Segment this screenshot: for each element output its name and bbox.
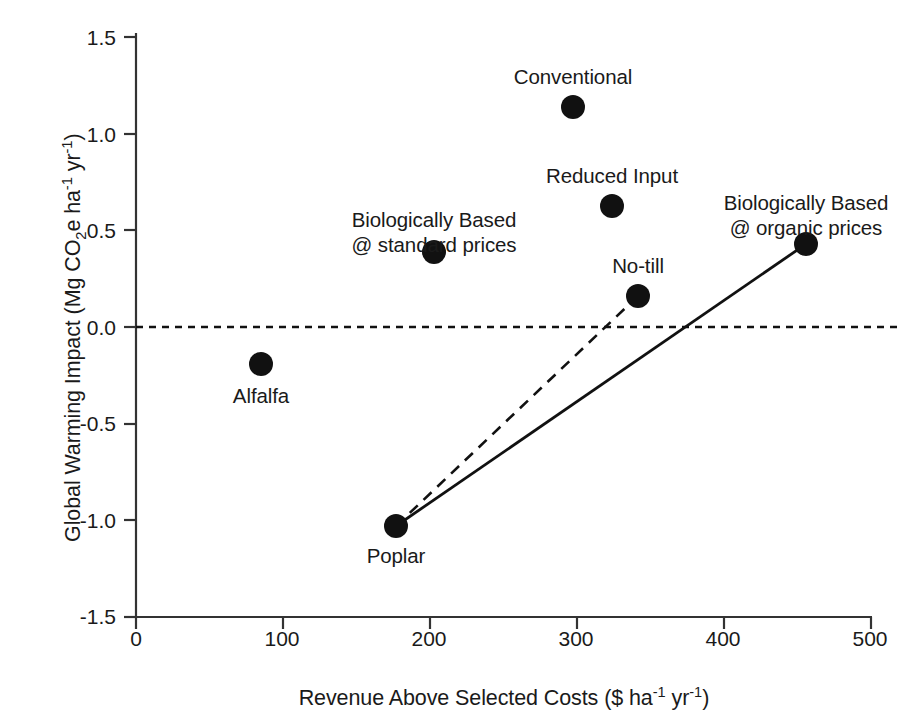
data-point-alfalfa[interactable] <box>249 352 273 376</box>
dashed-trend-line <box>396 296 638 526</box>
point-label-bio-standard-line2: @ standard prices <box>294 232 574 257</box>
point-label-conventional: Conventional <box>473 64 673 89</box>
point-label-no-till: No-till <box>578 253 698 278</box>
data-point-poplar[interactable] <box>384 514 408 538</box>
point-label-bio-organic-line2: @ organic prices <box>696 215 914 240</box>
point-label-poplar: Poplar <box>336 543 456 568</box>
scatter-chart-figure: Global Warming Impact (Mg CO2e ha-1 yr-1… <box>0 0 914 728</box>
point-label-bio-organic-line1: Biologically Based <box>696 190 914 215</box>
data-point-conventional[interactable] <box>561 95 585 119</box>
solid-trend-line <box>396 244 806 526</box>
data-point-reduced-input[interactable] <box>600 194 624 218</box>
point-label-biologically-based-organic: Biologically Based @ organic prices <box>696 190 914 240</box>
plot-area <box>0 0 914 728</box>
point-label-bio-standard-line1: Biologically Based <box>294 207 574 232</box>
data-point-no-till[interactable] <box>626 284 650 308</box>
point-label-reduced-input: Reduced Input <box>517 163 707 188</box>
point-label-biologically-based-standard: Biologically Based @ standard prices <box>294 207 574 257</box>
point-label-alfalfa: Alfalfa <box>201 383 321 408</box>
